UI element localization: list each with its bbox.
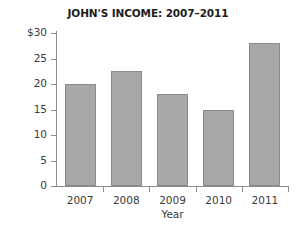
x-axis-tick xyxy=(196,187,197,192)
y-axis-tick xyxy=(51,33,56,34)
bar-2010 xyxy=(203,110,234,187)
x-axis-tick xyxy=(149,187,150,192)
x-axis-tick xyxy=(103,187,104,192)
y-axis-tick xyxy=(51,161,56,162)
x-axis-tick-label-2008: 2008 xyxy=(103,194,149,206)
x-axis-tick xyxy=(242,187,243,192)
y-axis-tick xyxy=(51,135,56,136)
y-axis-tick-label: $30 xyxy=(27,27,47,38)
y-axis-tick-label: 20 xyxy=(34,78,47,89)
x-axis-title: Year xyxy=(57,208,288,220)
x-axis-tick-label-2007: 2007 xyxy=(57,194,103,206)
y-axis-tick-label: 0 xyxy=(40,180,47,191)
bar-2011 xyxy=(249,43,280,186)
y-axis-tick xyxy=(51,186,56,187)
x-axis-tick-label-2009: 2009 xyxy=(150,194,196,206)
bar-2008 xyxy=(111,71,142,186)
y-axis-tick-label: 15 xyxy=(34,104,47,115)
y-axis-tick xyxy=(51,110,56,111)
bar-2007 xyxy=(65,84,96,186)
y-axis-tick-label: 25 xyxy=(34,53,47,64)
x-axis-tick-label-2010: 2010 xyxy=(196,194,242,206)
plot-area xyxy=(57,33,288,186)
x-axis-tick-label-2011: 2011 xyxy=(242,194,288,206)
chart-title: JOHN'S INCOME: 2007–2011 xyxy=(0,7,296,19)
y-axis-tick xyxy=(51,84,56,85)
y-axis-tick-label: 10 xyxy=(34,129,47,140)
bar-2009 xyxy=(157,94,188,186)
bar-chart-figure: JOHN'S INCOME: 2007–2011 Income (in thou… xyxy=(0,0,296,229)
y-axis-tick-label: 5 xyxy=(40,155,47,166)
x-axis-line xyxy=(56,186,289,187)
x-axis-tick xyxy=(288,187,289,192)
y-axis-tick xyxy=(51,59,56,60)
